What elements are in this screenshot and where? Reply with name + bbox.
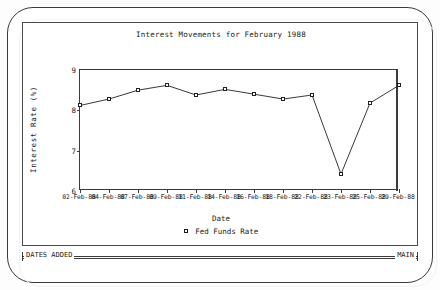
x-axis-tick-label: 29-Feb-88 bbox=[381, 193, 415, 201]
data-point-marker bbox=[136, 88, 140, 92]
status-message-dates-added: DATES ADDED bbox=[24, 251, 74, 259]
terminal-screen: Interest Movements for February 1988 Int… bbox=[0, 0, 440, 290]
series-polyline bbox=[80, 85, 399, 174]
y-axis-tick-mark bbox=[77, 110, 80, 111]
data-point-marker bbox=[107, 97, 111, 101]
data-point-marker bbox=[397, 83, 401, 87]
data-point-marker bbox=[78, 103, 82, 107]
y-axis-tick-label: 7 bbox=[71, 146, 76, 155]
data-point-marker bbox=[310, 93, 314, 97]
status-bar-left-cap bbox=[22, 252, 23, 261]
data-point-marker bbox=[165, 83, 169, 87]
y-axis-title: Interest Rate (%) bbox=[29, 69, 41, 190]
status-bar: DATES ADDED MAIN bbox=[22, 251, 418, 265]
data-point-marker bbox=[368, 101, 372, 105]
x-axis-title: Date bbox=[23, 214, 419, 223]
status-bar-right-cap bbox=[417, 252, 418, 261]
legend-label-fed-funds-rate: Fed Funds Rate bbox=[195, 227, 258, 236]
y-axis-tick-label: 8 bbox=[71, 106, 76, 115]
data-point-marker bbox=[339, 172, 343, 176]
data-point-marker bbox=[194, 93, 198, 97]
legend-square-marker-icon bbox=[184, 229, 188, 233]
y-axis-tick-mark bbox=[77, 151, 80, 152]
chart-window-frame: Interest Movements for February 1988 Int… bbox=[22, 22, 418, 246]
y-axis-tick-label: 9 bbox=[71, 66, 76, 75]
chart-legend: Fed Funds Rate bbox=[23, 227, 419, 236]
data-point-marker bbox=[223, 87, 227, 91]
status-bar-rule bbox=[22, 256, 418, 259]
data-point-marker bbox=[281, 97, 285, 101]
plot-area: 9876 bbox=[79, 69, 398, 190]
chart-title: Interest Movements for February 1988 bbox=[23, 30, 419, 39]
status-button-main[interactable]: MAIN bbox=[395, 251, 416, 259]
data-point-marker bbox=[252, 92, 256, 96]
x-axis-tick-labels: 02-Feb-8804-Feb-8807-Feb-8809-Feb-8811-F… bbox=[79, 193, 398, 204]
series-line-fed-funds-rate bbox=[80, 70, 399, 191]
